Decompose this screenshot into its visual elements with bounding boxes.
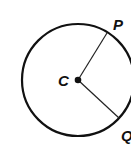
label-c: C xyxy=(58,72,70,89)
circle-diagram: C P Q xyxy=(0,0,131,146)
radius-cq xyxy=(78,80,119,118)
label-p: P xyxy=(113,16,124,33)
label-q: Q xyxy=(121,127,131,144)
radius-cp xyxy=(78,33,107,80)
center-point xyxy=(75,77,82,84)
